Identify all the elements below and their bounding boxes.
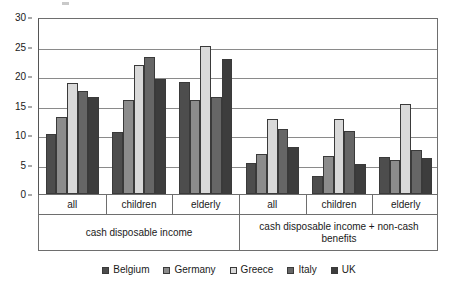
category-separator (306, 195, 307, 214)
panel-label: cash disposable income (39, 215, 239, 250)
bar (400, 104, 411, 194)
y-tick-label: 20 (15, 72, 26, 82)
legend-item[interactable]: UK (331, 265, 356, 275)
bar (190, 100, 201, 194)
y-tick-mark (28, 47, 32, 48)
legend-item[interactable]: Germany (163, 265, 215, 275)
bars-layer (39, 19, 437, 194)
y-tick-label: 5 (20, 161, 26, 171)
y-tick-mark (28, 195, 32, 196)
panel-label: cash disposable income + non-cash benefi… (239, 215, 439, 250)
bar (112, 132, 123, 194)
legend-label: Belgium (113, 265, 149, 275)
bar (355, 164, 366, 194)
bar (56, 117, 67, 194)
category-label: elderly (372, 195, 439, 214)
bar (200, 46, 211, 194)
category-label: all (239, 195, 306, 214)
bar (211, 97, 222, 194)
bar (144, 57, 155, 194)
legend-label: Greece (241, 265, 274, 275)
bar (411, 150, 422, 194)
legend-label: Italy (298, 265, 316, 275)
category-separator (239, 195, 240, 214)
bar (246, 163, 257, 194)
y-tick-mark (28, 18, 32, 19)
y-tick-mark (28, 165, 32, 166)
y-tick-label: 0 (20, 190, 26, 200)
legend-item[interactable]: Greece (230, 265, 274, 275)
bar (134, 65, 145, 194)
legend-swatch-icon (230, 267, 237, 274)
bar (67, 83, 78, 194)
panel-separator (239, 215, 240, 250)
category-separator (372, 195, 373, 214)
bar (179, 82, 190, 194)
panel-axis: cash disposable incomecash disposable in… (38, 215, 438, 251)
category-label: elderly (172, 195, 239, 214)
y-axis: 051015202530 (0, 18, 32, 195)
y-tick-label: 25 (15, 43, 26, 53)
category-label: children (106, 195, 173, 214)
legend-swatch-icon (102, 267, 109, 274)
bar (379, 157, 390, 194)
bar (78, 91, 89, 194)
plot-wrapper (38, 18, 438, 195)
y-tick-label: 15 (15, 102, 26, 112)
bar (88, 97, 99, 194)
category-label: all (39, 195, 106, 214)
legend-swatch-icon (163, 267, 170, 274)
y-tick-label: 10 (15, 131, 26, 141)
bar (123, 100, 134, 194)
bar (390, 160, 401, 194)
bar (46, 134, 57, 194)
category-label: children (306, 195, 373, 214)
legend-swatch-icon (287, 267, 294, 274)
plot-area (38, 18, 438, 195)
y-tick-mark (28, 136, 32, 137)
legend-swatch-icon (331, 267, 338, 274)
bar (222, 59, 233, 194)
legend-item[interactable]: Belgium (102, 265, 149, 275)
bar (288, 147, 299, 194)
legend-label: Germany (174, 265, 215, 275)
bar (312, 176, 323, 194)
category-separator (106, 195, 107, 214)
chart-legend: BelgiumGermanyGreeceItalyUK (0, 262, 458, 278)
scan-artifact (62, 2, 69, 5)
y-tick-mark (28, 77, 32, 78)
bar (256, 154, 267, 194)
bar (267, 119, 278, 194)
bar (155, 79, 166, 194)
bar-chart-figure: 051015202530 allchildrenelderlyallchildr… (0, 0, 458, 288)
bar (278, 129, 289, 194)
bar (334, 119, 345, 194)
y-tick-label: 30 (15, 13, 26, 23)
category-axis: allchildrenelderlyallchildrenelderly (38, 195, 438, 215)
bar (344, 131, 355, 194)
bar (323, 156, 334, 194)
legend-item[interactable]: Italy (287, 265, 316, 275)
y-tick-mark (28, 106, 32, 107)
bar (422, 158, 433, 194)
legend-label: UK (342, 265, 356, 275)
category-separator (172, 195, 173, 214)
